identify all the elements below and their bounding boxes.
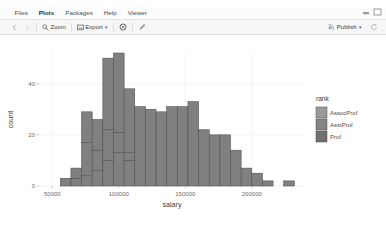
histogram-bar-segment [113, 132, 124, 152]
publish-icon [327, 23, 335, 31]
histogram-bar-segment [103, 130, 114, 161]
chevron-down-icon: ▾ [359, 24, 362, 30]
legend-key-label: Prof [330, 134, 341, 140]
clear-all-plots-button[interactable] [135, 21, 149, 33]
histogram-bar-segment [135, 107, 146, 186]
histogram-bar-segment [82, 112, 93, 143]
histogram-bar-segment [262, 181, 273, 186]
chevron-down-icon: ▾ [105, 24, 108, 30]
toolbar-separator-1 [36, 23, 37, 32]
export-image-icon [77, 24, 84, 31]
y-axis-tick-label: 20 [28, 132, 35, 138]
histogram-bar-segment [124, 89, 135, 153]
forward-button[interactable] [21, 21, 34, 33]
histogram-bar-segment [92, 150, 103, 170]
tab-plots[interactable]: Plots [33, 7, 59, 19]
histogram-bar-segment [124, 153, 135, 161]
back-button[interactable] [8, 21, 21, 33]
tab-packages[interactable]: Packages [60, 7, 99, 19]
histogram-bar-segment [231, 150, 242, 186]
histogram-bar-segment [103, 58, 114, 130]
zoom-button[interactable]: Zoom [39, 21, 69, 33]
toolbar-separator-4 [132, 23, 133, 32]
plot-output-area[interactable]: 0204050000100000150000200000salarycountr… [0, 35, 386, 233]
window-controls [362, 8, 382, 16]
remove-plot-icon [119, 23, 127, 31]
publish-label: Publish [337, 24, 357, 30]
histogram-bar-segment [82, 176, 93, 186]
chevron-left-icon [11, 24, 18, 31]
legend-key-swatch [316, 107, 327, 118]
magnifier-icon [42, 24, 49, 31]
x-axis-tick-label: 200000 [242, 191, 263, 197]
clear-all-plots-icon [138, 23, 146, 31]
export-label: Export [85, 24, 102, 30]
histogram-bar-segment [220, 135, 231, 186]
tab-help[interactable]: Help [98, 7, 122, 19]
pane-tabstrip: Files Plots Packages Help Viewer [0, 7, 386, 20]
histogram-bar-segment [145, 109, 156, 186]
x-axis-tick-label: 100000 [109, 191, 130, 197]
legend: rankAssocProfAsstProfProf [316, 95, 358, 142]
legend-key-label: AsstProf [330, 122, 353, 128]
histogram-bar-segment [103, 160, 114, 186]
histogram-bar-segment [71, 168, 82, 178]
y-axis-tick-label: 40 [28, 81, 35, 87]
histogram-bar-segment [82, 143, 93, 176]
x-axis-tick-label: 150000 [175, 191, 196, 197]
chevron-right-icon [24, 24, 31, 31]
toolbar-separator-2 [71, 23, 72, 32]
x-axis-tick-label: 50000 [44, 191, 61, 197]
publish-button[interactable]: Publish ▾ [324, 21, 365, 33]
histogram-bar-segment [177, 107, 188, 186]
refresh-button[interactable] [367, 21, 381, 33]
y-axis-tick-label: 0 [32, 183, 36, 189]
plots-toolbar: Zoom Export ▾ [0, 20, 386, 35]
histogram-bar-segment [92, 120, 103, 151]
zoom-label: Zoom [51, 24, 66, 30]
histogram-bar-segment [156, 112, 167, 186]
ggplot-histogram: 0204050000100000150000200000salarycountr… [0, 35, 386, 233]
histogram-bar-segment [60, 178, 71, 186]
legend-title: rank [316, 95, 330, 102]
histogram-bar-segment [71, 178, 82, 186]
histogram-bar-segment [284, 181, 295, 186]
histogram-bar-segment [113, 153, 124, 186]
histogram-bar-segment [199, 130, 210, 186]
pane-bottom-gap [0, 230, 386, 233]
rstudio-plots-pane: Files Plots Packages Help Viewer [0, 0, 386, 233]
tab-viewer[interactable]: Viewer [122, 7, 152, 19]
x-axis-title: salary [162, 200, 182, 209]
minimize-icon[interactable] [362, 8, 371, 16]
y-axis-title: count [6, 111, 15, 129]
histogram-bar-segment [113, 53, 124, 132]
refresh-icon [370, 23, 378, 31]
legend-key-swatch [316, 131, 327, 142]
histogram-bar-segment [252, 173, 263, 186]
histogram-bar-segment [124, 160, 135, 186]
histogram-bar-segment [188, 102, 199, 186]
tab-files[interactable]: Files [9, 7, 33, 19]
remove-plot-button[interactable] [116, 21, 130, 33]
histogram-bar-segment [167, 107, 178, 186]
histogram-bar-segment [92, 171, 103, 186]
legend-key-label: AssocProf [330, 110, 358, 116]
histogram-bar-segment [209, 135, 220, 186]
maximize-icon[interactable] [373, 8, 382, 16]
histogram-bar-segment [241, 168, 252, 186]
export-button[interactable]: Export ▾ [74, 21, 111, 33]
toolbar-separator-3 [113, 23, 114, 32]
toolbar-right-group: Publish ▾ [324, 21, 381, 33]
legend-key-swatch [316, 119, 327, 130]
pane-top-gap [0, 0, 386, 7]
